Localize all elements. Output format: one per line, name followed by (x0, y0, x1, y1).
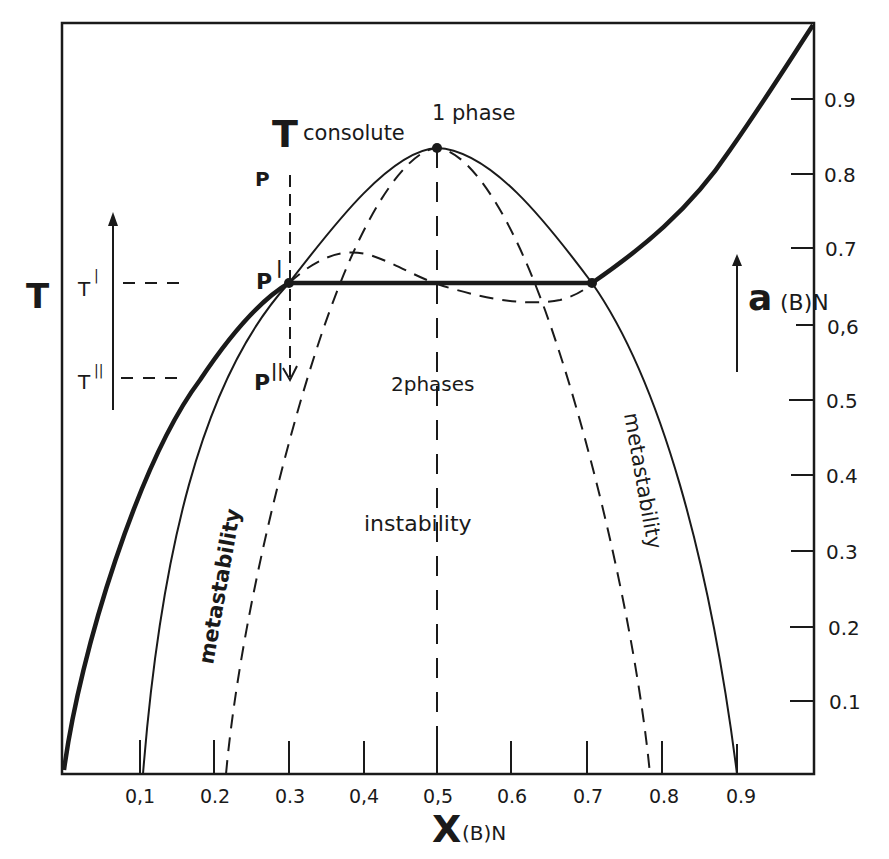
t-double-prime-label: T (77, 370, 91, 394)
two-phases-label: 2phases (391, 372, 475, 396)
svg-text:0.8: 0.8 (649, 785, 679, 807)
metastability-left-label: metastability (194, 506, 245, 665)
p-prime-label: P (256, 269, 272, 294)
svg-text:||: || (94, 362, 103, 379)
arrow-up-icon (108, 212, 118, 226)
svg-text:0.3: 0.3 (826, 540, 858, 564)
x-tick-labels: 0,1 0.2 0.3 0,4 0,5 0.6 0.7 0.8 0.9 (125, 785, 756, 807)
y-tick-labels: 0.9 0.8 0.7 0,6 0.5 0.4 0.3 0.2 0.1 (824, 88, 861, 714)
svg-text:0.9: 0.9 (824, 88, 856, 112)
svg-text:0.2: 0.2 (828, 616, 860, 640)
p-label: P (255, 167, 270, 191)
t-prime-label: T (77, 277, 91, 301)
x-axis-symbol: X (432, 807, 461, 851)
metastability-right-label: metastability (619, 411, 667, 551)
svg-text:0.5: 0.5 (826, 389, 858, 413)
svg-text:|: | (94, 267, 99, 284)
p-double-prime-label: P (254, 370, 270, 395)
activity-axis-subscript: (B)N (780, 290, 829, 315)
van-der-waals-loop (289, 252, 592, 302)
svg-text:0.1: 0.1 (829, 690, 861, 714)
svg-text:0.9: 0.9 (726, 785, 756, 807)
activity-curve-right (592, 25, 813, 283)
svg-text:0,5: 0,5 (423, 785, 453, 807)
p-prime-point (284, 278, 294, 288)
svg-text:0.3: 0.3 (275, 785, 305, 807)
t-consolute-symbol: T (272, 112, 298, 156)
svg-text:0,1: 0,1 (125, 785, 155, 807)
svg-text:|: | (276, 257, 283, 278)
svg-text:0.7: 0.7 (573, 785, 603, 807)
y-axis-ticks (789, 99, 814, 701)
svg-text:0,4: 0,4 (349, 785, 379, 807)
t-consolute-label: consolute (303, 121, 405, 145)
activity-curve (64, 283, 289, 770)
one-phase-label: 1 phase (432, 101, 515, 125)
svg-text:||: || (271, 361, 283, 381)
t-axis-label: T (26, 276, 50, 316)
svg-text:0.6: 0.6 (497, 785, 527, 807)
svg-text:0.4: 0.4 (826, 464, 858, 488)
x-axis-subscript: (B)N (462, 821, 506, 845)
arrow-up-icon (732, 254, 742, 266)
right-binodal-point (587, 278, 597, 288)
phase-diagram: 0,1 0.2 0.3 0,4 0,5 0.6 0.7 0.8 0.9 0.9 … (0, 0, 889, 859)
svg-text:0,6: 0,6 (827, 315, 859, 339)
svg-text:0.2: 0.2 (200, 785, 230, 807)
consolute-point (432, 143, 442, 153)
svg-text:0.7: 0.7 (825, 237, 857, 261)
activity-axis-symbol: a (748, 277, 772, 318)
svg-text:0.8: 0.8 (824, 163, 856, 187)
instability-label: instability (364, 511, 472, 536)
